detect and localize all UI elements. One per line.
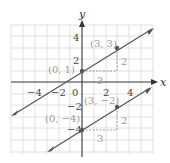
y-tick-neg2: −2: [67, 101, 82, 112]
y-axis-arrow-icon: [79, 20, 85, 27]
y-axis-label: y: [78, 8, 86, 21]
label-point-3-3: (3, 3): [90, 38, 117, 49]
label-point-3-neg2: (3, −2): [84, 95, 119, 106]
x-axis-arrow-icon: [151, 79, 158, 85]
label-point-0-neg4: (0, −4): [45, 113, 80, 124]
x-axis-label: x: [160, 76, 167, 89]
rise-label-lower: 2: [121, 115, 127, 126]
arrowhead-icon: [145, 87, 152, 94]
origin-label: 0: [72, 87, 78, 98]
run-label-upper: 3: [97, 75, 103, 86]
point-0-1: [80, 69, 84, 73]
label-point-0-1: (0, 1): [48, 64, 75, 75]
x-tick-4: 4: [127, 87, 133, 98]
x-tick-neg4: −4: [27, 87, 42, 98]
coordinate-graph: x y −4 −2 0 2 4 4 2 −2 −4 (0, 1) (3, 3) …: [0, 0, 170, 163]
run-label-lower: 3: [97, 133, 103, 144]
slope-triangles: [82, 47, 117, 130]
rise-label-upper: 2: [121, 56, 127, 67]
point-0-neg4: [80, 128, 84, 132]
y-tick-4: 4: [73, 32, 79, 43]
y-tick-neg4: −4: [67, 124, 82, 135]
x-tick-neg2: −2: [51, 87, 66, 98]
